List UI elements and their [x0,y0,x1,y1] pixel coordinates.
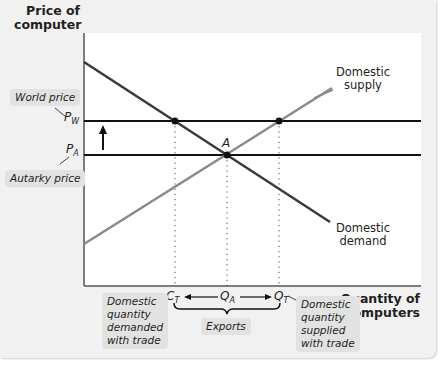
point-qt [276,118,283,125]
pw-sub: W [71,117,79,126]
supplied-tag-line1: Domestic [301,298,355,311]
supplied-tag-line3: supplied [301,324,355,337]
supply-label: Domestic supply [330,66,396,92]
pa-label: PA [66,142,79,158]
point-ct [172,118,179,125]
pw-label: PW [64,110,79,126]
arrow-left-icon [184,294,191,300]
point-a [224,152,231,159]
arrow-right-icon [265,294,272,300]
qa-sub: A [229,296,234,305]
demand-label: Domestic demand [330,222,396,248]
exports-tag: Exports [201,318,251,335]
supply-curve [84,88,332,244]
y-axis-title: Price of computer [14,4,80,32]
supplied-tag-line2: quantity [301,311,355,324]
y-axis-title-line2: computer [14,18,80,32]
demanded-tag-line1: Domestic [107,295,163,308]
equilibrium-label: A [222,136,230,150]
qt-sub: T [283,296,288,305]
demanded-tag-line3: demanded [107,321,163,334]
autarky-price-tag: Autarky price [5,170,85,187]
qt-leader [288,296,296,300]
y-axis-title-line1: Price of [14,4,80,18]
demanded-tag-line2: quantity [107,308,163,321]
supplied-tag-line4: with trade [301,337,355,350]
ct-sub: T [174,296,179,305]
demanded-with-trade-tag: Domestic quantity demanded with trade [102,293,168,349]
qt-label: QT [274,289,288,305]
supply-label-line2: supply [330,79,396,92]
demanded-tag-line4: with trade [107,334,163,347]
supplied-with-trade-tag: Domestic quantity supplied with trade [296,296,360,352]
pa-sub: A [73,149,78,158]
demand-curve [84,62,330,222]
arrow-up-icon [99,125,107,134]
qa-label: QA [220,289,235,305]
world-price-tag: World price [10,89,80,106]
demand-label-line2: demand [330,235,396,248]
